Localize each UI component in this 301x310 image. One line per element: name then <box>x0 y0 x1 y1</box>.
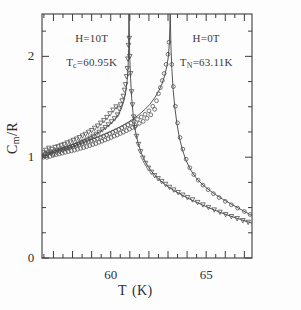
capacity-vs-temperature-plot <box>0 0 301 310</box>
y-axis-title-denominator: /R <box>5 122 20 136</box>
annotation-neel-temperature: TN=63.11K <box>180 57 233 71</box>
tc-symbol: T <box>66 57 73 69</box>
tn-value: =63.11K <box>193 57 233 69</box>
x-axis-ticks <box>44 14 244 258</box>
series-1 <box>41 14 252 225</box>
fit-curve <box>42 14 252 223</box>
y-axis-title-subscript: m <box>10 136 21 144</box>
tn-symbol: T <box>180 57 187 69</box>
y-tick-label-1: 1 <box>28 149 35 165</box>
x-axis-title: T(K) <box>118 283 153 299</box>
x-axis-title-unit: (K) <box>132 283 153 298</box>
plot-frame <box>42 14 252 258</box>
x-axis-title-symbol: T <box>118 283 127 298</box>
tc-value: =60.95K <box>77 57 117 69</box>
y-axis-title-symbol: C <box>5 144 20 154</box>
data-series-group <box>41 14 252 225</box>
x-tick-label-65: 65 <box>200 267 213 283</box>
annotation-field-right: H=0T <box>193 32 220 44</box>
x-tick-label-60: 60 <box>104 267 117 283</box>
annotation-field-left: H=10T <box>75 32 108 44</box>
y-tick-label-2: 2 <box>28 48 35 64</box>
annotation-critical-temperature: Tc=60.95K <box>66 57 117 71</box>
figure-container: 2 1 0 60 65 T(K) Cm/R H=10T Tc=60.95K H=… <box>0 0 301 310</box>
y-tick-label-0: 0 <box>28 250 35 266</box>
y-axis-title: Cm/R <box>5 112 21 164</box>
series-2 <box>42 14 252 216</box>
